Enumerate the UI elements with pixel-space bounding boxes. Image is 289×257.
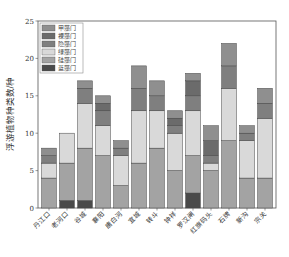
legend-swatch: [42, 57, 55, 63]
bar-segment: [114, 156, 129, 186]
y-tick-label: 0: [30, 205, 34, 213]
bar-stack: [114, 141, 129, 208]
bar-segment: [42, 148, 57, 155]
x-tick-label: 宜城: [126, 209, 142, 225]
y-axis: 0510152025: [25, 18, 38, 213]
bar-segment: [150, 81, 165, 96]
bar-segment: [96, 156, 111, 208]
x-tick-label: 襄阳: [90, 209, 106, 225]
bar-segment: [42, 163, 57, 178]
legend-label: 裸藻门: [58, 32, 76, 40]
legend-swatch: [42, 49, 55, 55]
bar-segment: [204, 156, 219, 163]
y-tick-label: 25: [25, 18, 34, 26]
bar-stack: [258, 88, 273, 208]
bar-segment: [222, 88, 237, 140]
bar-segment: [150, 148, 165, 208]
bar-segment: [132, 66, 147, 88]
bar-segment: [240, 126, 255, 133]
bar-stack: [78, 81, 93, 208]
bar-segment: [186, 111, 201, 156]
bar-segment: [78, 201, 93, 208]
bar-segment: [204, 163, 219, 170]
bar-segment: [78, 148, 93, 200]
bar-stack: [150, 81, 165, 208]
bar-segment: [258, 178, 273, 208]
bar-segment: [60, 163, 75, 200]
bar-stack: [132, 66, 147, 208]
legend-label: 蓝藻门: [58, 64, 76, 72]
y-axis-title: 浮游植物种类数/种: [5, 77, 15, 152]
x-tick-label: 宗关: [252, 209, 268, 225]
bar-segment: [240, 178, 255, 208]
bar-stack: [186, 73, 201, 208]
bar-segment: [258, 118, 273, 178]
x-tick-label: 唐白河: [103, 209, 124, 230]
legend-label: 绿藻门: [58, 48, 76, 56]
y-tick-label: 5: [30, 167, 34, 175]
bar-segment: [42, 178, 57, 208]
x-tick-label: 石牌: [216, 209, 232, 225]
x-tick-label: 老河口: [49, 209, 70, 230]
x-tick-label: 新沟: [234, 209, 250, 225]
legend-label: 甲藻门: [58, 24, 76, 32]
bar-segment: [168, 171, 183, 208]
bar-segment: [60, 201, 75, 208]
bar-segment: [186, 193, 201, 208]
legend-swatch: [42, 41, 55, 47]
bar-stack: [60, 133, 75, 208]
legend-label: 硅藻门: [58, 56, 76, 64]
legend-swatch: [42, 65, 55, 71]
x-tick-label: 转斗: [144, 209, 160, 225]
bar-segment: [132, 88, 147, 110]
bar-segment: [78, 103, 93, 148]
bar-segment: [78, 88, 93, 103]
bar-segment: [204, 141, 219, 156]
legend-label: 隐藻门: [58, 40, 76, 48]
bar-segment: [168, 111, 183, 118]
bar-stack: [204, 126, 219, 208]
bar-segment: [258, 88, 273, 103]
bar-segment: [150, 96, 165, 111]
bar-segment: [258, 103, 273, 118]
bar-segment: [114, 186, 129, 208]
stacked-bar-chart: 0510152025 丹江口老河口谷城襄阳唐白河宜城转斗钟祥罗汉闸红旗码头石牌新…: [0, 0, 289, 257]
bar-segment: [240, 141, 255, 178]
bar-segment: [186, 81, 201, 96]
bar-segment: [132, 111, 147, 163]
bar-segment: [42, 156, 57, 163]
y-tick-label: 10: [25, 130, 34, 138]
x-axis: 丹江口老河口谷城襄阳唐白河宜城转斗钟祥罗汉闸红旗码头石牌新沟宗关: [32, 208, 269, 235]
bar-segment: [186, 96, 201, 111]
bar-segment: [96, 111, 111, 126]
legend: 甲藻门裸藻门隐藻门绿藻门硅藻门蓝藻门: [40, 23, 83, 73]
y-tick-label: 15: [25, 92, 34, 100]
bar-segment: [96, 103, 111, 110]
bar-segment: [132, 163, 147, 208]
y-tick-label: 20: [25, 55, 34, 63]
bar-segment: [150, 111, 165, 148]
x-tick-label: 丹江口: [32, 210, 53, 231]
bar-stack: [42, 148, 57, 208]
bar-segment: [186, 156, 201, 193]
bar-segment: [204, 171, 219, 208]
bar-segment: [114, 141, 129, 148]
legend-swatch: [42, 25, 55, 31]
bar-stack: [240, 126, 255, 208]
bar-segment: [78, 81, 93, 88]
bar-segment: [222, 66, 237, 88]
bar-segment: [186, 73, 201, 80]
bar-segment: [168, 126, 183, 133]
bar-stack: [96, 96, 111, 208]
legend-swatch: [42, 33, 55, 39]
bar-segment: [222, 141, 237, 208]
bar-segment: [96, 126, 111, 156]
x-tick-label: 谷城: [72, 209, 88, 225]
bar-segment: [114, 148, 129, 155]
bar-segment: [240, 133, 255, 140]
bar-segment: [168, 133, 183, 170]
bar-stack: [168, 111, 183, 208]
bar-segment: [96, 96, 111, 103]
bar-segment: [204, 126, 219, 141]
bar-segment: [60, 133, 75, 163]
